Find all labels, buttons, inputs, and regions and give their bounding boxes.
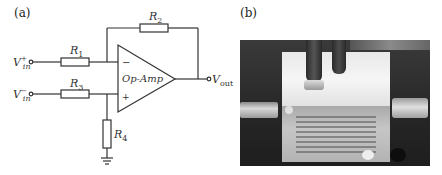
ground-icon (101, 158, 113, 164)
top-cable-left (306, 40, 322, 82)
op-amp-label: Op-Amp (122, 73, 164, 84)
enclosure-label-text (296, 116, 376, 154)
noninverting-input-sign: + (122, 92, 130, 102)
inverting-input-sign: − (122, 57, 130, 68)
left-sma-connector (240, 102, 278, 118)
resistor-r3 (61, 90, 89, 98)
right-sma-connector (392, 98, 428, 118)
r2-label: R2 (148, 10, 162, 25)
r3-label: R3 (69, 77, 83, 92)
vin-plus-label: V+in (13, 55, 31, 71)
vout-label: Vout (212, 73, 234, 88)
top-cable-right (332, 40, 346, 74)
r1-label: R1 (69, 44, 83, 59)
panel-hole (390, 148, 406, 162)
amplifier-photo (240, 40, 430, 166)
vin-minus-label: V−in (13, 87, 31, 103)
panel-b-label: (b) (240, 6, 257, 20)
screw-bottom (362, 150, 374, 160)
photo-top-strip (350, 40, 430, 50)
r4-label: R4 (113, 128, 127, 143)
output-terminal (207, 77, 211, 81)
resistor-r4 (103, 120, 111, 148)
resistor-r1 (61, 58, 89, 66)
resistor-r2 (140, 24, 168, 32)
op-amp-circuit-diagram: R1 R2 R3 R4 Op-Amp − + V+in V−in Vout (0, 0, 235, 175)
top-connector-nut (304, 80, 324, 90)
screw-left (285, 106, 293, 114)
